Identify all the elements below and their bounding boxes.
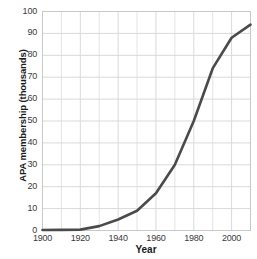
y-tick-label: 30 [5, 159, 37, 169]
y-tick-label: 10 [5, 203, 37, 213]
y-tick-label: 70 [5, 71, 37, 81]
x-tick-label: 1960 [136, 233, 176, 243]
x-tick-label: 2000 [212, 233, 252, 243]
y-tick-label: 40 [5, 137, 37, 147]
y-tick-label: 50 [5, 115, 37, 125]
x-tick-label: 1920 [60, 233, 100, 243]
x-tick-label: 1980 [174, 233, 214, 243]
plot-area [0, 0, 257, 259]
x-tick-label: 1900 [23, 233, 63, 243]
chart-container: APA membership (thousands) Year 01020304… [0, 0, 257, 259]
y-tick-label: 80 [5, 49, 37, 59]
y-tick-label: 20 [5, 181, 37, 191]
grid-lines [43, 12, 251, 231]
x-tick-label: 1940 [98, 233, 138, 243]
y-tick-label: 100 [5, 6, 37, 16]
y-tick-label: 60 [5, 93, 37, 103]
y-tick-label: 90 [5, 27, 37, 37]
